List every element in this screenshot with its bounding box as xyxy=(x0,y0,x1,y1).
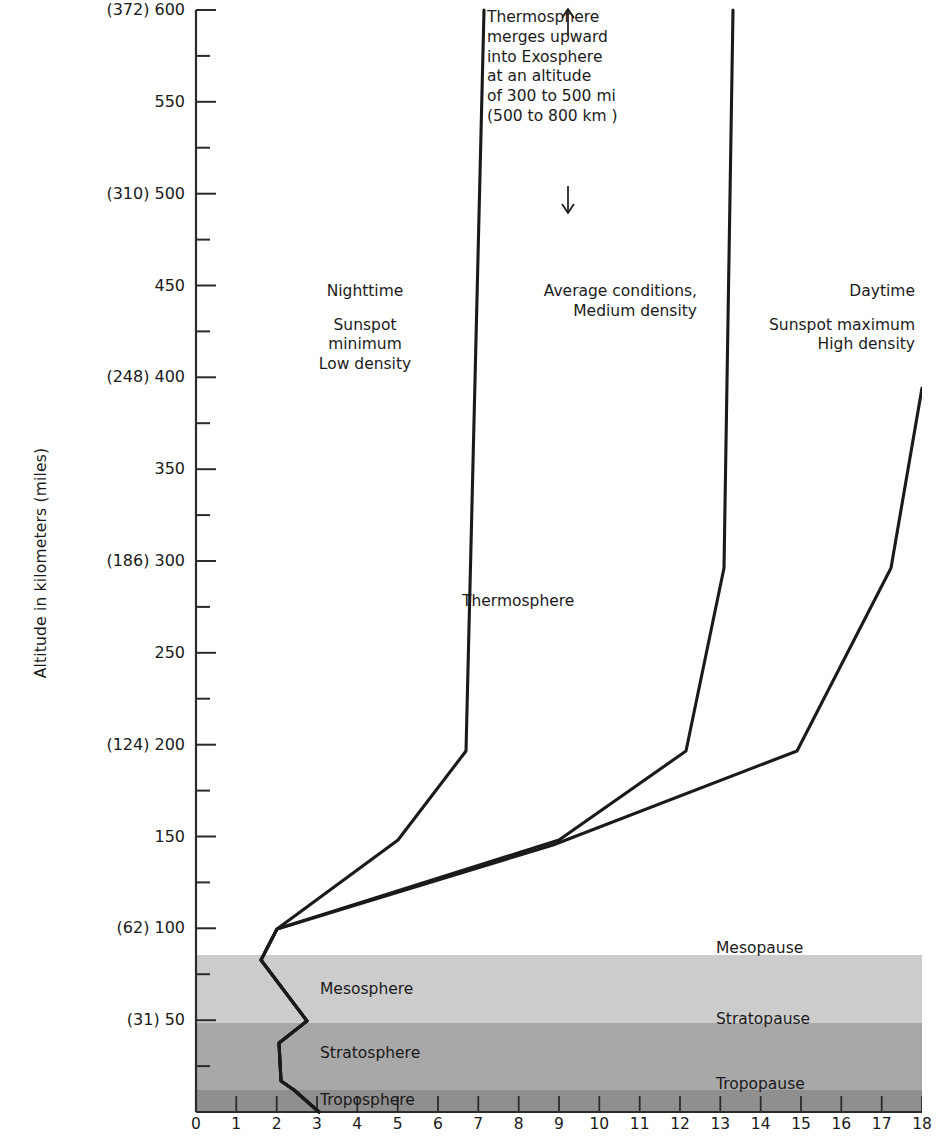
daytime-header: Daytime xyxy=(740,282,915,302)
y-tick-100-miles: (62) xyxy=(117,918,150,937)
average-curve-label: Average conditions, Medium density xyxy=(497,282,697,322)
x-tick-7: 7 xyxy=(461,1117,495,1133)
y-tick-300-miles: (186) xyxy=(106,551,149,570)
y-tick-400: (248)400 xyxy=(0,369,185,385)
mesosphere-label: Mesosphere xyxy=(320,982,413,998)
y-tick-200: (124)200 xyxy=(0,737,185,753)
x-tick-0: 0 xyxy=(179,1117,213,1133)
y-tick-100: (62)100 xyxy=(0,920,185,936)
x-tick-3: 3 xyxy=(300,1117,334,1133)
y-tick-500-km: 500 xyxy=(154,184,185,203)
y-tick-50: (31)50 xyxy=(0,1012,185,1028)
stratosphere-band xyxy=(196,1023,922,1090)
daytime-curve-label: DaytimeSunspot maximum High density xyxy=(740,262,915,355)
x-tick-18: 18 xyxy=(905,1117,936,1133)
x-tick-13: 13 xyxy=(703,1117,737,1133)
x-tick-9: 9 xyxy=(542,1117,576,1133)
y-tick-100-km: 100 xyxy=(154,918,185,937)
y-tick-600: (372)600 xyxy=(0,2,185,18)
y-tick-400-miles: (248) xyxy=(106,367,149,386)
profile-curves xyxy=(261,10,922,1112)
exosphere-note: Thermosphere merges upward into Exospher… xyxy=(487,8,677,127)
nighttime-header: Nighttime xyxy=(300,282,430,302)
x-tick-4: 4 xyxy=(340,1117,374,1133)
y-tick-350-km: 350 xyxy=(154,459,185,478)
stratosphere-label: Stratosphere xyxy=(320,1046,420,1062)
y-tick-400-km: 400 xyxy=(154,367,185,386)
thermosphere-label: Thermosphere xyxy=(462,592,662,612)
y-tick-500-miles: (310) xyxy=(106,184,149,203)
y-tick-300: (186)300 xyxy=(0,553,185,569)
nighttime-curve-label: NighttimeSunspot minimum Low density xyxy=(300,262,430,375)
mesosphere-band xyxy=(196,955,922,1023)
y-tick-450: 450 xyxy=(0,278,185,294)
y-tick-200-km: 200 xyxy=(154,735,185,754)
stratopause-label: Stratopause xyxy=(716,1012,810,1028)
curve-nighttime xyxy=(261,10,484,1112)
x-tick-17: 17 xyxy=(865,1117,899,1133)
y-tick-600-miles: (372) xyxy=(106,0,149,19)
x-tick-6: 6 xyxy=(421,1117,455,1133)
troposphere-label: Troposphere xyxy=(320,1093,415,1109)
nighttime-body: Sunspot minimum Low density xyxy=(319,316,411,374)
x-tick-16: 16 xyxy=(824,1117,858,1133)
x-tick-15: 15 xyxy=(784,1117,818,1133)
y-tick-300-km: 300 xyxy=(154,551,185,570)
tropopause-label: Tropopause xyxy=(716,1077,805,1093)
y-tick-450-km: 450 xyxy=(154,276,185,295)
x-tick-5: 5 xyxy=(381,1117,415,1133)
x-tick-12: 12 xyxy=(663,1117,697,1133)
y-tick-150: 150 xyxy=(0,829,185,845)
y-tick-200-miles: (124) xyxy=(106,735,149,754)
y-tick-50-km: 50 xyxy=(165,1010,185,1029)
x-tick-14: 14 xyxy=(744,1117,778,1133)
y-tick-350: 350 xyxy=(0,461,185,477)
mesopause-label: Mesopause xyxy=(716,941,803,957)
y-tick-600-km: 600 xyxy=(154,0,185,19)
daytime-body: Sunspot maximum High density xyxy=(769,316,915,354)
y-tick-250: 250 xyxy=(0,645,185,661)
x-tick-2: 2 xyxy=(260,1117,294,1133)
y-tick-250-km: 250 xyxy=(154,643,185,662)
axes xyxy=(196,10,922,1112)
x-tick-8: 8 xyxy=(502,1117,536,1133)
y-tick-50-miles: (31) xyxy=(127,1010,160,1029)
y-tick-550-km: 550 xyxy=(154,92,185,111)
y-tick-500: (310)500 xyxy=(0,186,185,202)
x-tick-10: 10 xyxy=(582,1117,616,1133)
curve-average xyxy=(261,10,733,1112)
x-tick-1: 1 xyxy=(219,1117,253,1133)
y-tick-550: 550 xyxy=(0,94,185,110)
layer-bands xyxy=(196,955,922,1112)
y-tick-150-km: 150 xyxy=(154,827,185,846)
x-tick-11: 11 xyxy=(623,1117,657,1133)
